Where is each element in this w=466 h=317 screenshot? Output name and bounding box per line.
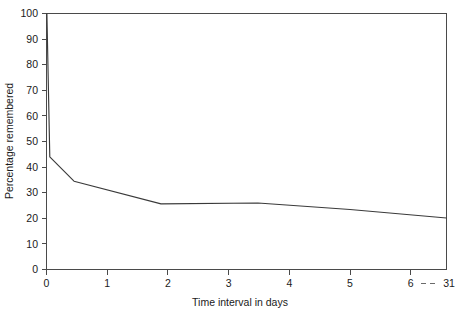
y-tick-label: 10 [26, 238, 38, 250]
y-tick-label: 60 [26, 110, 38, 122]
series-line-percentage-remembered [47, 14, 447, 218]
y-tick-label: 20 [26, 212, 38, 224]
y-tick-label: 40 [26, 161, 38, 173]
x-tick-label-break: 31 [443, 277, 455, 289]
chart-figure: 100 90 80 70 60 50 40 30 20 10 0 0 1 2 [0, 0, 466, 317]
y-tick-label: 70 [26, 84, 38, 96]
x-tick-label: 4 [286, 277, 292, 289]
y-tick-label: 30 [26, 186, 38, 198]
y-tick-label: 90 [26, 33, 38, 45]
x-axis-tick-labels: 0 1 2 3 4 5 6 [44, 277, 414, 289]
y-axis-tick-labels: 100 90 80 70 60 50 40 30 20 10 0 [20, 7, 38, 275]
x-axis-title: Time interval in days [192, 296, 288, 308]
y-axis-ticks [42, 14, 47, 270]
y-tick-label: 100 [20, 7, 38, 19]
x-axis-ticks [47, 270, 411, 275]
y-tick-label: 80 [26, 58, 38, 70]
x-tick-label: 1 [104, 277, 110, 289]
y-tick-label: 0 [32, 263, 38, 275]
x-tick-label: 0 [44, 277, 50, 289]
x-tick-label: 6 [408, 277, 414, 289]
plot-frame [47, 14, 447, 270]
y-tick-label: 50 [26, 135, 38, 147]
x-tick-label: 5 [347, 277, 353, 289]
y-axis-title: Percentage remembered [3, 83, 15, 199]
forgetting-curve-chart: 100 90 80 70 60 50 40 30 20 10 0 0 1 2 [0, 0, 466, 317]
x-tick-label: 2 [165, 277, 171, 289]
x-tick-label: 3 [226, 277, 232, 289]
